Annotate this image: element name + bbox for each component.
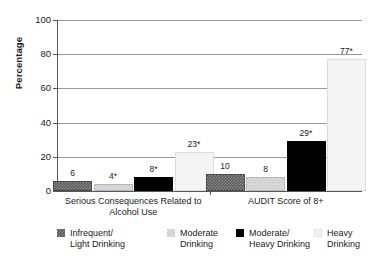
x-axis-category-label-line: Alcohol Use (57, 207, 210, 218)
y-axis-tick-mark (53, 88, 57, 89)
bar (94, 184, 133, 191)
y-axis-tick-mark (53, 157, 57, 158)
y-axis-tick-mark (53, 191, 57, 192)
y-axis-tick-mark (53, 20, 57, 21)
y-axis-tick-label: 60 (21, 83, 51, 93)
y-axis-tick-label: 80 (21, 49, 51, 59)
bar-value-label: 4* (94, 172, 133, 181)
bar (246, 177, 285, 191)
gridline (58, 123, 362, 124)
legend-item[interactable]: Moderate/Heavy Drinking (236, 228, 310, 250)
legend-label-line: Drinking (327, 239, 360, 250)
y-axis-line (57, 20, 58, 191)
y-axis-tick-mark (53, 54, 57, 55)
x-axis-group-tick (210, 191, 211, 195)
legend-label-line: Heavy (327, 228, 360, 239)
gridline (58, 88, 362, 89)
legend-item[interactable]: HeavyDrinking (314, 228, 360, 250)
y-axis-title: Percentage (12, 13, 26, 113)
bar-value-label: 8* (134, 165, 173, 174)
bar-chart-figure: Percentage 020406080100 64*8*23*10829*77… (0, 0, 378, 262)
y-axis-tick-label: 40 (21, 118, 51, 128)
x-axis-category-label-line: Serious Consequences Related to (57, 196, 210, 207)
bar-value-label: 23* (175, 140, 214, 149)
legend-swatch-icon (57, 229, 65, 237)
chart-legend: Infrequent/Light DrinkingModerateDrinkin… (0, 228, 378, 258)
bar (287, 141, 326, 191)
legend-label: ModerateDrinking (180, 228, 218, 250)
y-axis-tick-label: 0 (21, 186, 51, 196)
legend-label-line: Infrequent/ (70, 228, 125, 239)
bar-value-label: 77* (327, 47, 366, 56)
legend-label: Moderate/Heavy Drinking (249, 228, 310, 250)
bar (206, 174, 245, 191)
legend-label-line: Drinking (180, 239, 218, 250)
bar-value-label: 8 (246, 165, 285, 174)
bar-value-label: 10 (206, 162, 245, 171)
bar-value-label: 6 (53, 169, 92, 178)
y-axis-tick-label: 20 (21, 152, 51, 162)
legend-label-line: Moderate/ (249, 228, 310, 239)
bar (134, 177, 173, 191)
x-axis-category-label-line: AUDIT Score of 8+ (210, 196, 363, 207)
legend-swatch-icon (236, 229, 244, 237)
legend-label-line: Light Drinking (70, 239, 125, 250)
bar (53, 181, 92, 191)
legend-swatch-icon (167, 229, 175, 237)
legend-label-line: Heavy Drinking (249, 239, 310, 250)
bar (327, 59, 366, 191)
y-axis-tick-label: 100 (21, 15, 51, 25)
gridline (58, 54, 362, 55)
legend-label: HeavyDrinking (327, 228, 360, 250)
plot-area: 020406080100 64*8*23*10829*77* (57, 20, 362, 191)
x-axis-category-label: Serious Consequences Related toAlcohol U… (57, 196, 210, 218)
legend-item[interactable]: ModerateDrinking (167, 228, 218, 250)
legend-label: Infrequent/Light Drinking (70, 228, 125, 250)
y-axis-tick-mark (53, 123, 57, 124)
legend-swatch-icon (314, 229, 322, 237)
legend-item[interactable]: Infrequent/Light Drinking (57, 228, 125, 250)
x-axis-category-label: AUDIT Score of 8+ (210, 196, 363, 207)
gridline (58, 20, 362, 21)
bar-value-label: 29* (287, 129, 326, 138)
legend-label-line: Moderate (180, 228, 218, 239)
